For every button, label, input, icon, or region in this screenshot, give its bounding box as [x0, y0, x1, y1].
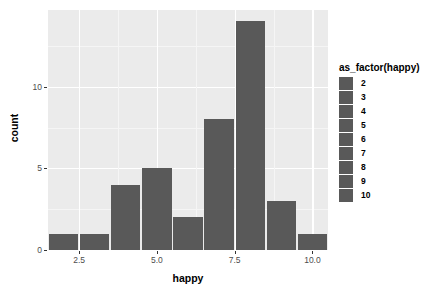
- legend-entry: 8: [339, 160, 434, 174]
- legend-key-swatch: [339, 189, 353, 202]
- gridline-major-vertical: [79, 10, 80, 250]
- x-axis-tick-mark: [157, 251, 158, 254]
- legend-entry-label: 2: [361, 79, 366, 88]
- y-axis-tick-label: 10: [18, 83, 42, 92]
- gridline-major-horizontal: [48, 87, 328, 88]
- x-axis-tick-label: 7.5: [229, 256, 241, 265]
- legend-entry: 6: [339, 132, 434, 146]
- bar: [80, 234, 109, 250]
- legend-entry: 7: [339, 146, 434, 160]
- y-axis-tick-mark: [44, 168, 47, 169]
- legend-entry-label: 7: [361, 149, 366, 158]
- x-axis-tick-mark: [79, 251, 80, 254]
- y-axis-tick-mark: [44, 250, 47, 251]
- legend-entry: 10: [339, 188, 434, 202]
- legend-entry-label: 4: [361, 107, 366, 116]
- legend-entry: 3: [339, 90, 434, 104]
- x-axis-tick-labels: 2.55.07.510.0: [48, 256, 328, 268]
- legend-entry-label: 8: [361, 163, 366, 172]
- x-axis-tick-label: 2.5: [73, 256, 85, 265]
- legend-key-swatch: [339, 147, 353, 160]
- bar: [49, 234, 78, 250]
- legend-entry: 5: [339, 118, 434, 132]
- legend-key-swatch: [339, 119, 353, 132]
- legend-entries: 2345678910: [339, 76, 434, 202]
- legend-key-swatch: [339, 133, 353, 146]
- y-axis-tick-label: 0: [18, 246, 42, 255]
- legend-entry: 2: [339, 76, 434, 90]
- legend-entry: 4: [339, 104, 434, 118]
- legend-key-swatch: [339, 91, 353, 104]
- legend-entry-label: 3: [361, 93, 366, 102]
- gridline-major-vertical: [312, 10, 313, 250]
- legend-entry-label: 9: [361, 177, 366, 186]
- legend-entry-label: 6: [361, 135, 366, 144]
- x-axis-tick-label: 5.0: [151, 256, 163, 265]
- legend-key-swatch: [339, 161, 353, 174]
- legend-entry-label: 5: [361, 121, 366, 130]
- bar: [298, 234, 327, 250]
- legend-key-swatch: [339, 175, 353, 188]
- gridline-minor-vertical: [196, 10, 197, 250]
- gridline-minor-horizontal: [48, 46, 328, 47]
- gridline-major-horizontal: [48, 168, 328, 169]
- x-axis-title: happy: [48, 272, 328, 284]
- x-axis-tick-mark: [312, 251, 313, 254]
- bar: [267, 201, 296, 250]
- x-axis-tick-mark: [235, 251, 236, 254]
- legend-entry-label: 10: [361, 191, 370, 200]
- y-axis-tick-mark: [44, 87, 47, 88]
- x-axis-tick-label: 10.0: [304, 256, 321, 265]
- legend-key-swatch: [339, 77, 353, 90]
- gridline-minor-horizontal: [48, 128, 328, 129]
- histogram-plot: 0510 2.55.07.510.0 happy count as_factor…: [0, 0, 436, 298]
- bar: [204, 119, 233, 250]
- legend-key-swatch: [339, 105, 353, 118]
- bar: [173, 217, 202, 250]
- bar: [142, 168, 171, 250]
- legend: as_factor(happy) 2345678910: [339, 62, 434, 202]
- legend-title: as_factor(happy): [339, 62, 434, 73]
- y-axis-tick-label: 5: [18, 164, 42, 173]
- bar: [111, 185, 140, 250]
- bar: [236, 21, 265, 250]
- legend-entry: 9: [339, 174, 434, 188]
- y-axis-title: count: [8, 98, 20, 158]
- plot-panel: [48, 10, 328, 250]
- y-axis-tick-labels: 0510: [18, 10, 42, 250]
